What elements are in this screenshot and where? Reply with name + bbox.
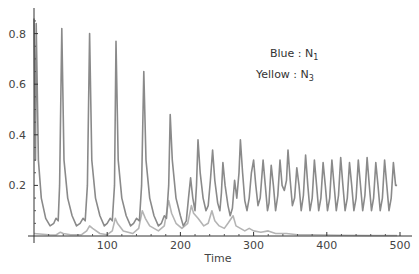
line-chart: 100200300400500 0.20.40.60.8 Time Blue :… <box>0 0 419 274</box>
x-axis-label: Time <box>204 252 232 265</box>
x-tick-label: 300 <box>243 239 264 252</box>
series-line <box>34 201 397 236</box>
y-tick-label: 0.6 <box>9 78 27 91</box>
y-tick-label: 0.8 <box>9 28 27 41</box>
x-ticks: 100200300400500 <box>49 232 411 252</box>
series-line <box>34 18 397 226</box>
x-tick-label: 200 <box>170 239 191 252</box>
legend-entry-yellow: Yellow : N3 <box>255 68 314 83</box>
series-layer <box>34 18 397 235</box>
y-tick-label: 0.4 <box>9 129 27 142</box>
legend: Blue : N1 Yellow : N3 <box>255 47 318 83</box>
y-tick-label: 0.2 <box>9 179 27 192</box>
x-tick-label: 400 <box>316 239 337 252</box>
x-tick-label: 500 <box>390 239 411 252</box>
legend-entry-blue: Blue : N1 <box>270 47 318 62</box>
x-tick-label: 100 <box>97 239 118 252</box>
